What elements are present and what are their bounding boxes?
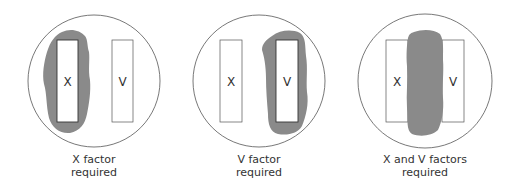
caption-v-factor: V factor required [179, 153, 339, 179]
plate-v-factor: X V [193, 15, 325, 147]
v-strip-label: V [449, 75, 458, 89]
caption-line-1: V factor [179, 153, 339, 166]
caption-x-and-v-factors: X and V factors required [345, 153, 505, 179]
caption-line-1: X factor [14, 153, 174, 166]
x-strip-label: X [393, 75, 401, 89]
v-strip-label: V [283, 75, 292, 89]
caption-line-2: required [345, 166, 505, 179]
v-strip-label: V [118, 75, 127, 89]
x-strip-label: X [227, 75, 235, 89]
bacterial-growth-zone [407, 30, 444, 136]
caption-line-2: required [14, 166, 174, 179]
x-strip-label: X [63, 75, 71, 89]
caption-line-1: X and V factors [345, 153, 505, 166]
plate-x-factor: X V [28, 15, 160, 147]
plate-x-and-v-factors: X V [358, 14, 492, 148]
caption-line-2: required [179, 166, 339, 179]
caption-x-factor: X factor required [14, 153, 174, 179]
